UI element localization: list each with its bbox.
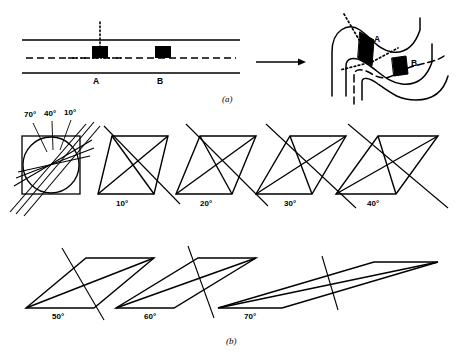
rigid-block-b-deformed [392, 56, 408, 76]
panel-label-b: (b) [226, 336, 237, 346]
shear-angle-label-10: 10° [116, 199, 128, 208]
marker-label-b-undeformed: B [157, 76, 163, 86]
sheared-shape-20 [176, 124, 268, 206]
rigid-block-b [155, 46, 171, 58]
panel-label-a: (a) [222, 94, 233, 104]
panel-a-undeformed [22, 22, 240, 73]
fan-label-10: 10° [64, 108, 76, 117]
shear-angle-label-20: 20° [200, 199, 212, 208]
sheared-shape-60 [116, 246, 256, 318]
figure-artwork [0, 0, 464, 357]
marker-label-a-deformed: A [374, 34, 380, 44]
panel-b-reference-marker [10, 120, 100, 216]
shear-angle-label-60: 60° [144, 312, 156, 321]
shear-angle-label-50: 50° [52, 312, 64, 321]
shear-angle-label-30: 30° [284, 199, 296, 208]
sheared-shape-50 [26, 248, 154, 320]
marker-label-a-undeformed: A [93, 76, 99, 86]
shear-angle-label-40: 40° [367, 199, 379, 208]
deformation-arrow [256, 58, 306, 65]
rigid-block-a [92, 46, 108, 58]
panel-a-deformed [332, 14, 448, 104]
sheared-shape-30 [256, 124, 356, 208]
fan-label-70: 70° [24, 110, 36, 119]
shear-angle-label-70: 70° [244, 312, 256, 321]
sheared-shape-10 [98, 126, 180, 204]
sheared-shape-40 [336, 124, 448, 208]
sheared-shape-70 [218, 256, 438, 310]
folded-bed-bottom [362, 76, 448, 100]
figure-container: A B A B (a) (b) 70° 40° 10° 10° 20° 30° … [0, 0, 464, 357]
marker-label-b-deformed: B [411, 58, 417, 68]
fan-label-40: 40° [44, 109, 56, 118]
